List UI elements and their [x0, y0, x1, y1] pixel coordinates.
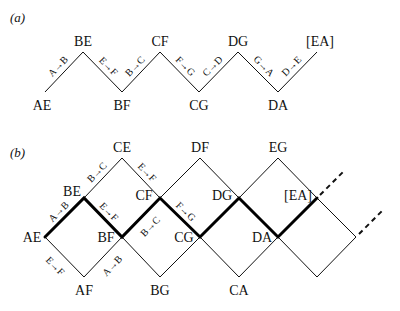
node-label: AE — [33, 98, 52, 113]
edge-label: A→B — [46, 199, 71, 224]
edge-label: B→C — [123, 54, 147, 79]
edge-label: E→F — [136, 161, 159, 185]
edge-label: E→F — [44, 254, 67, 278]
node-label: CF — [151, 34, 168, 49]
edge-label: E→F — [97, 54, 120, 78]
continuation-dash — [320, 172, 343, 195]
node-label: EG — [269, 140, 288, 155]
panel-a-label: (a) — [10, 10, 25, 25]
node-label: CF — [135, 188, 152, 203]
edge-label: D→E — [279, 54, 303, 78]
node-label: CA — [229, 283, 249, 298]
node-label: BG — [150, 283, 169, 298]
edge-label: A→B — [46, 53, 71, 78]
panel-b-edge-labels: A→BE→FB→CE→FA→BE→FB→CF→G — [44, 160, 198, 279]
node-label: AF — [75, 283, 93, 298]
node-label: BE — [74, 34, 92, 49]
node-label: BE — [63, 184, 81, 199]
lattice-edge — [200, 237, 239, 277]
edge-label: F→G — [174, 54, 198, 78]
lattice-edge — [239, 158, 278, 198]
continuation-dash — [359, 211, 382, 234]
panel-b-continuation-dashes — [320, 172, 382, 234]
node-label: AE — [23, 230, 42, 245]
node-label: CE — [113, 140, 131, 155]
lattice-diagram: (a) A→BE→FB→CF→GC→DG→AD→E AEBEBFCFCGDGDA… — [0, 0, 400, 311]
lattice-edge — [317, 198, 356, 237]
edge-label: E→F — [98, 200, 121, 224]
lattice-edge — [122, 237, 160, 277]
lattice-edge — [317, 237, 356, 277]
node-label: BF — [97, 230, 114, 245]
node-label: [EA] — [284, 188, 312, 203]
node-label: [EA] — [306, 34, 334, 49]
node-label: CG — [174, 230, 193, 245]
panel-b-label: (b) — [10, 145, 25, 160]
node-label: BF — [113, 98, 130, 113]
node-label: DA — [252, 230, 273, 245]
edge-label: B→C — [85, 160, 109, 185]
panel-b-node-labels: AEBEAFCEBFCFBGDFCGDGCAEGDA[EA] — [23, 140, 312, 298]
node-label: CG — [189, 98, 208, 113]
lattice-edge — [160, 158, 200, 198]
node-label: DF — [191, 140, 209, 155]
edge-label: G→A — [251, 53, 277, 79]
node-label: DA — [268, 98, 289, 113]
node-label: DG — [212, 188, 232, 203]
lattice-edge — [278, 237, 317, 277]
node-label: DG — [228, 34, 248, 49]
edge-label: F→G — [174, 200, 198, 224]
edge-label: C→D — [200, 54, 225, 79]
